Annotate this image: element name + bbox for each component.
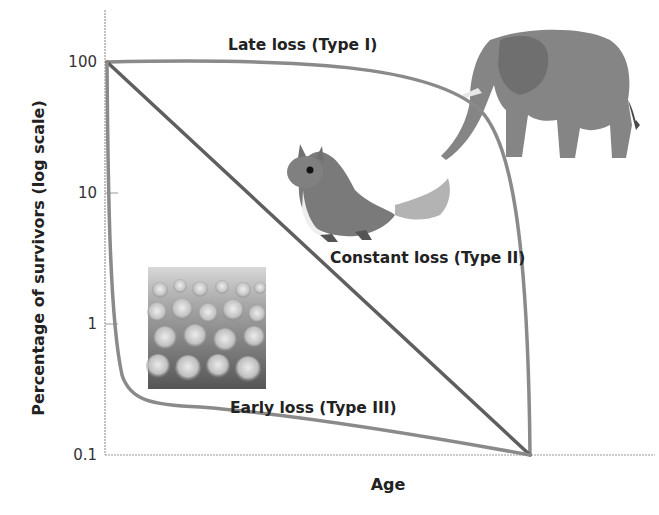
label-type-2: Constant loss (Type II) [330,249,525,267]
label-type-1: Late loss (Type I) [228,36,377,54]
elephant-photo [441,30,640,160]
y-tick-label-1: 1 [87,315,97,333]
x-axis-title: Age [371,475,406,494]
dandelion-photo [146,267,266,389]
y-tick-label-100: 100 [68,53,97,71]
label-type-3: Early loss (Type III) [230,399,397,417]
y-axis-title: Percentage of survivors (log scale) [29,100,48,415]
squirrel-photo [287,144,450,242]
y-tick-label-10: 10 [78,184,97,202]
survivorship-chart: 100 10 1 0.1 Percentage of survivors (lo… [0,0,659,515]
y-tick-label-0.1: 0.1 [73,446,97,464]
